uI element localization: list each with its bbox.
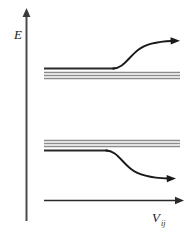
coupling-axis-label: V ij [152, 210, 166, 228]
repelled-upper-arrowhead [171, 37, 181, 44]
coupling-axis-arrowhead [175, 197, 184, 204]
coupling-axis-label-subscript: ij [161, 219, 166, 228]
repelled-lower-curve [106, 151, 168, 179]
diagram-canvas: E V ij [0, 0, 191, 232]
energy-axis [23, 8, 31, 221]
repelled-upper-curve [113, 41, 172, 69]
energy-level-diagram: E V ij [0, 0, 191, 232]
repelled-lower-arrowhead [167, 175, 176, 182]
lower-manifold [44, 141, 180, 151]
repelled-upper-branch [113, 37, 180, 68]
repelled-lower-branch [106, 151, 176, 183]
upper-manifold [44, 69, 180, 79]
energy-axis-label: E [13, 27, 22, 42]
energy-axis-arrowhead [23, 8, 31, 17]
coupling-axis [44, 197, 184, 204]
